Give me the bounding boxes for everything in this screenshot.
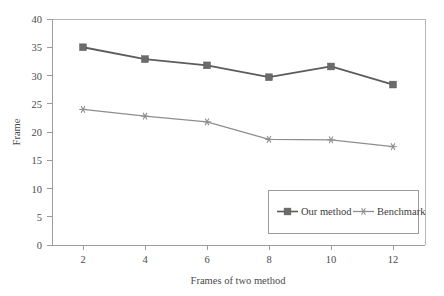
x-tick-label: 8: [266, 254, 271, 265]
chart-legend[interactable]: Our method Benchmark: [268, 190, 426, 233]
x-tick-label: 6: [204, 254, 209, 265]
y-tick-label: 15: [32, 155, 43, 166]
x-tick-marks: [83, 245, 393, 250]
x-axis-title: Frames of two method: [191, 275, 287, 286]
data-point-marker: [327, 137, 335, 144]
data-point-marker: [80, 44, 87, 51]
data-point-marker: [204, 62, 211, 69]
x-tick-label: 4: [142, 254, 148, 265]
data-point-marker: [203, 119, 211, 126]
y-tick-label: 30: [32, 71, 43, 82]
x-tick-label: 2: [80, 254, 85, 265]
data-point-marker: [390, 81, 397, 88]
y-tick-label: 5: [37, 212, 42, 223]
series-our-method-line: [83, 47, 393, 84]
series-our-method: [80, 44, 397, 88]
y-tick-label: 0: [37, 240, 42, 251]
data-point-marker: [265, 136, 273, 143]
chart-figure: 40 35 30 25 20 15 10 5 0 2 4 6 8 10 12 F…: [0, 0, 444, 296]
series-benchmark: [79, 106, 397, 150]
y-tick-label: 40: [32, 14, 43, 25]
y-tick-label: 20: [32, 127, 43, 138]
y-tick-label: 35: [32, 42, 43, 53]
data-point-marker: [142, 56, 149, 63]
line-chart: 40 35 30 25 20 15 10 5 0 2 4 6 8 10 12 F…: [0, 0, 444, 296]
data-point-marker: [141, 113, 149, 120]
x-tick-label: 10: [326, 254, 337, 265]
y-tick-label: 10: [32, 184, 43, 195]
series-benchmark-line: [83, 109, 393, 146]
data-point-marker: [79, 106, 87, 113]
y-tick-label: 25: [32, 99, 43, 110]
legend-label: Benchmark: [377, 206, 426, 217]
data-point-marker: [266, 74, 273, 81]
x-tick-label: 12: [388, 254, 399, 265]
y-axis-title: Frame: [11, 118, 22, 145]
y-tick-marks: [47, 19, 52, 245]
data-point-marker: [328, 63, 335, 70]
data-point-marker: [389, 143, 397, 150]
legend-square-marker-icon: [284, 208, 291, 215]
legend-label: Our method: [301, 206, 352, 217]
